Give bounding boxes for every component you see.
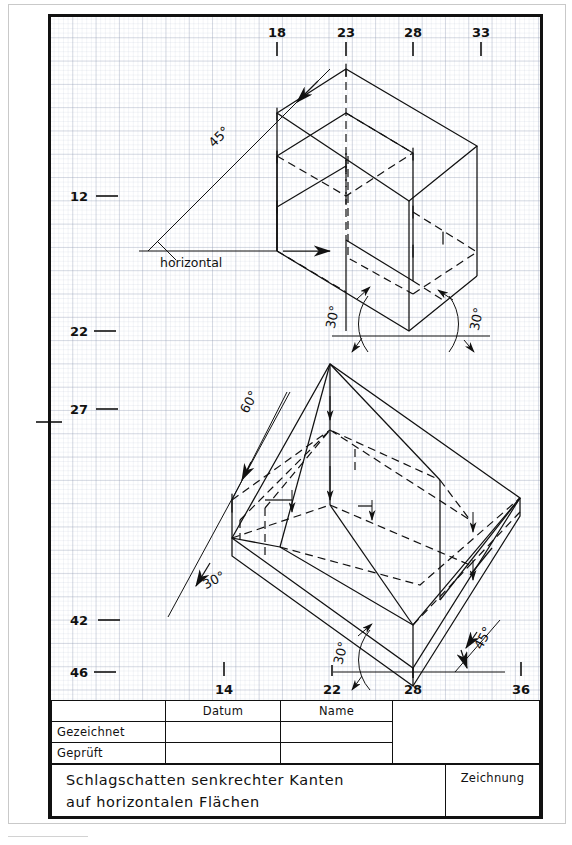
angle-label-60-lower: 60° — [237, 388, 261, 415]
drawing-sheet: 18 23 28 33 12 22 27 42 46 14 — [0, 0, 572, 845]
arc-arrow-left-down — [352, 338, 362, 352]
inner-plate-edges — [232, 498, 520, 625]
header-name-label: Name — [319, 704, 354, 718]
bottom-axis-labels: 14 22 28 36 — [215, 682, 530, 697]
hidden-lower-j — [330, 430, 470, 520]
arc-30-lower-arrow-down — [352, 676, 362, 690]
tick-label: 42 — [70, 613, 88, 628]
top-axis-labels: 18 23 28 33 — [268, 25, 490, 40]
angle-label-30-lower-bottom: 30° — [330, 640, 350, 666]
tick-label: 22 — [70, 324, 88, 339]
hidden-shadow-diag — [413, 212, 477, 252]
tick-label: 33 — [472, 25, 490, 40]
arc-arrow-left-up — [357, 287, 370, 299]
angle-label-30-upper-right: 30° — [467, 306, 486, 332]
outer-plate-top — [232, 364, 520, 668]
table-row: Geprüft — [52, 743, 392, 763]
arc-30-left — [358, 296, 368, 352]
top-axis-ticks — [277, 42, 481, 56]
hidden-lower-k — [440, 480, 470, 520]
tick-label: 22 — [323, 682, 341, 697]
lower-figure: 60° 30° 30° 45° — [168, 364, 520, 690]
inner-prism-right — [346, 212, 413, 281]
cell-name-gezeichnet[interactable] — [281, 722, 392, 742]
tick-label: 14 — [215, 682, 233, 697]
arc-30-right — [449, 296, 459, 352]
table-row: Gezeichnet — [52, 722, 392, 743]
title-block-upper: Datum Name Gezeichnet — [51, 700, 540, 764]
header-datum-label: Datum — [203, 704, 243, 718]
hidden-lower-b — [240, 430, 440, 520]
outer-box-bottom-front — [277, 251, 477, 331]
title-block-table: Datum Name Gezeichnet — [52, 701, 392, 763]
header-cell-datum: Datum — [166, 701, 281, 721]
title-block: Datum Name Gezeichnet — [51, 700, 540, 819]
header-cell-blank — [52, 701, 166, 721]
angle-label-45-upper: 45° — [205, 123, 232, 150]
left-axis-ticks — [36, 196, 120, 672]
bottom-axis-ticks — [224, 662, 521, 678]
tick-label: 18 — [268, 25, 286, 40]
construction-ticks — [232, 494, 492, 575]
arc-30-lower — [359, 630, 370, 690]
table-header-row: Datum Name — [52, 701, 392, 722]
angle-label-30-upper-left: 30° — [323, 304, 342, 330]
row-label-text: Geprüft — [57, 746, 103, 760]
tick-label: 12 — [70, 189, 88, 204]
page-footer-rule — [8, 836, 88, 840]
left-axis-labels: 12 22 27 42 46 — [70, 189, 88, 680]
inner-upper-chamfer — [277, 166, 346, 207]
drawing-title-line2: auf horizontalen Flächen — [66, 792, 445, 813]
row-label-geprueft: Geprüft — [52, 743, 166, 763]
title-block-lower: Schlagschatten senkrechter Kanten auf ho… — [51, 764, 540, 819]
plate-thickness-right — [413, 498, 520, 686]
tick-label: 28 — [404, 25, 422, 40]
drawing-title-line1: Schlagschatten senkrechter Kanten — [66, 770, 445, 791]
tick-label: 36 — [512, 682, 530, 697]
tick-label: 46 — [70, 665, 88, 680]
hidden-inner-lower — [348, 156, 413, 294]
hidden-lower-l — [413, 565, 470, 625]
row-label-gezeichnet: Gezeichnet — [52, 722, 166, 742]
outer-box-top-face — [277, 69, 477, 201]
hidden-inner-lower-right — [413, 252, 477, 294]
cell-datum-gezeichnet[interactable] — [166, 722, 281, 742]
hidden-lower-d — [232, 430, 330, 500]
cell-name-geprueft[interactable] — [281, 743, 392, 763]
inner-prism-top — [277, 113, 413, 212]
angle-label-45-lower: 45° — [471, 624, 495, 651]
row-label-text: Gezeichnet — [57, 725, 125, 739]
plate-thickness-front — [232, 538, 413, 686]
ray-30-lower — [168, 392, 290, 617]
upper-figure: 45° horizontal 30° 30° — [139, 64, 490, 352]
horizontal-axis-label: horizontal — [160, 255, 222, 270]
header-cell-name: Name — [281, 701, 392, 721]
tick-label: 27 — [70, 402, 88, 417]
projection-arrows — [292, 396, 473, 580]
arc-arrow-right-down — [464, 340, 474, 352]
drawing-number-label: Zeichnung — [461, 771, 525, 785]
drawing-number-cell: Zeichnung — [445, 765, 539, 818]
inner-edge-upper-right — [330, 364, 440, 480]
cell-datum-geprueft[interactable] — [166, 743, 281, 763]
vertex-dots — [277, 64, 443, 257]
drawing-title: Schlagschatten senkrechter Kanten auf ho… — [52, 765, 445, 818]
tick-label: 23 — [337, 25, 355, 40]
hidden-lower-a — [232, 505, 330, 538]
title-block-blank-area — [392, 701, 539, 763]
